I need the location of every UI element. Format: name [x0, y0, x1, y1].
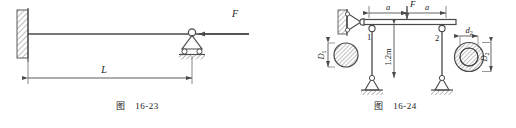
member-1: 1: [361, 25, 383, 95]
force-F-label: F: [231, 8, 239, 19]
wall-roller-top: [345, 12, 349, 16]
force-F-label-right: F: [409, 0, 416, 9]
dimension-height: 1.2m: [383, 25, 394, 79]
caption-label-left: 图: [116, 101, 126, 111]
section-annulus-inner-hatch: [460, 48, 478, 66]
section-member-1: D1: [316, 43, 358, 67]
section-d2-subscript: 2: [470, 30, 473, 36]
section-D2-subscript: 2: [484, 52, 490, 55]
dimension-L-label: L: [100, 64, 107, 75]
member-2: 2: [431, 25, 453, 95]
figure-sheet: F L 图16-23: [0, 0, 516, 128]
wall-hatch-body: [17, 10, 28, 58]
dimension-a-right-label: a: [425, 2, 429, 12]
caption-number-left: 16-23: [135, 101, 159, 111]
figure-16-24-caption: 图16-24: [258, 89, 516, 122]
section-D1-subscript: 1: [321, 50, 327, 53]
support-triangle: [182, 36, 202, 50]
caption-number-right: 16-24: [393, 101, 417, 111]
section-d2-label: d2: [465, 25, 472, 36]
wall-pin-support: [338, 9, 366, 36]
member-2-top-pin: [439, 25, 445, 31]
section-D1-label: D1: [316, 50, 327, 60]
roller-right: [197, 49, 202, 54]
member-1-bottom-pin: [369, 75, 374, 80]
member-2-label: 2: [435, 33, 439, 43]
dimension-height-label: 1.2m: [383, 48, 393, 66]
member-2-bottom-pin: [439, 75, 444, 80]
roller-left: [182, 49, 187, 54]
figure-16-23: F L 图16-23: [0, 0, 258, 128]
rigid-beam: [364, 20, 456, 25]
member-1-label: 1: [367, 32, 371, 42]
dimension-a-left-label: a: [386, 2, 390, 12]
figure-16-24: 1 2 F: [258, 0, 516, 128]
figure-16-23-caption: 图16-23: [0, 89, 258, 122]
fixed-wall-support: [17, 8, 28, 62]
section-member-2: d2 D2: [454, 25, 491, 72]
caption-label-right: 图: [374, 101, 384, 111]
member-1-top-pin: [369, 25, 375, 31]
dimension-L: L: [28, 56, 192, 84]
section-solid-hatch: [334, 43, 358, 67]
wall-roller-bottom: [345, 28, 349, 32]
